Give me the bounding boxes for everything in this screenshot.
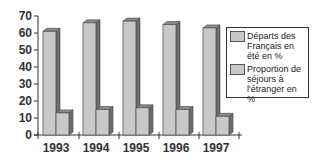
y-tick-label: 0 [25,128,32,142]
x-tick-label: 1995 [123,141,150,155]
legend-swatch [230,31,245,42]
bar [216,116,229,135]
bar [176,110,189,136]
bar [136,108,149,135]
bar-side [109,107,113,136]
x-tick-label: 1993 [43,141,70,155]
bar [43,31,56,135]
y-tick-label: 10 [19,111,33,125]
bar-side [189,107,193,136]
bar-side [229,113,233,135]
legend-item-departures: Départs des Français en été en % [230,31,305,61]
y-tick-label: 50 [19,43,33,57]
y-tick-label: 60 [19,26,33,40]
bar [203,28,216,135]
bar [83,23,96,135]
legend-label: Départs des Français en été en % [247,31,296,61]
legend-swatch [230,64,245,75]
legend-label: Proportion de séjours à l'étranger en % [247,64,305,104]
bar [56,113,69,135]
bar [123,21,136,135]
bar [96,110,109,136]
y-tick-label: 70 [19,9,33,23]
bar-side [69,110,73,135]
y-tick-label: 40 [19,60,33,74]
x-tick-label: 1994 [83,141,110,155]
bar [163,25,176,136]
y-tick-label: 30 [19,77,33,91]
x-tick-label: 1996 [163,141,190,155]
bar-side [149,105,153,135]
y-tick-label: 20 [19,94,33,108]
chart-legend: Départs des Français en été en % Proport… [226,27,309,98]
legend-item-abroad: Proportion de séjours à l'étranger en % [230,64,305,104]
x-tick-label: 1997 [203,141,230,155]
